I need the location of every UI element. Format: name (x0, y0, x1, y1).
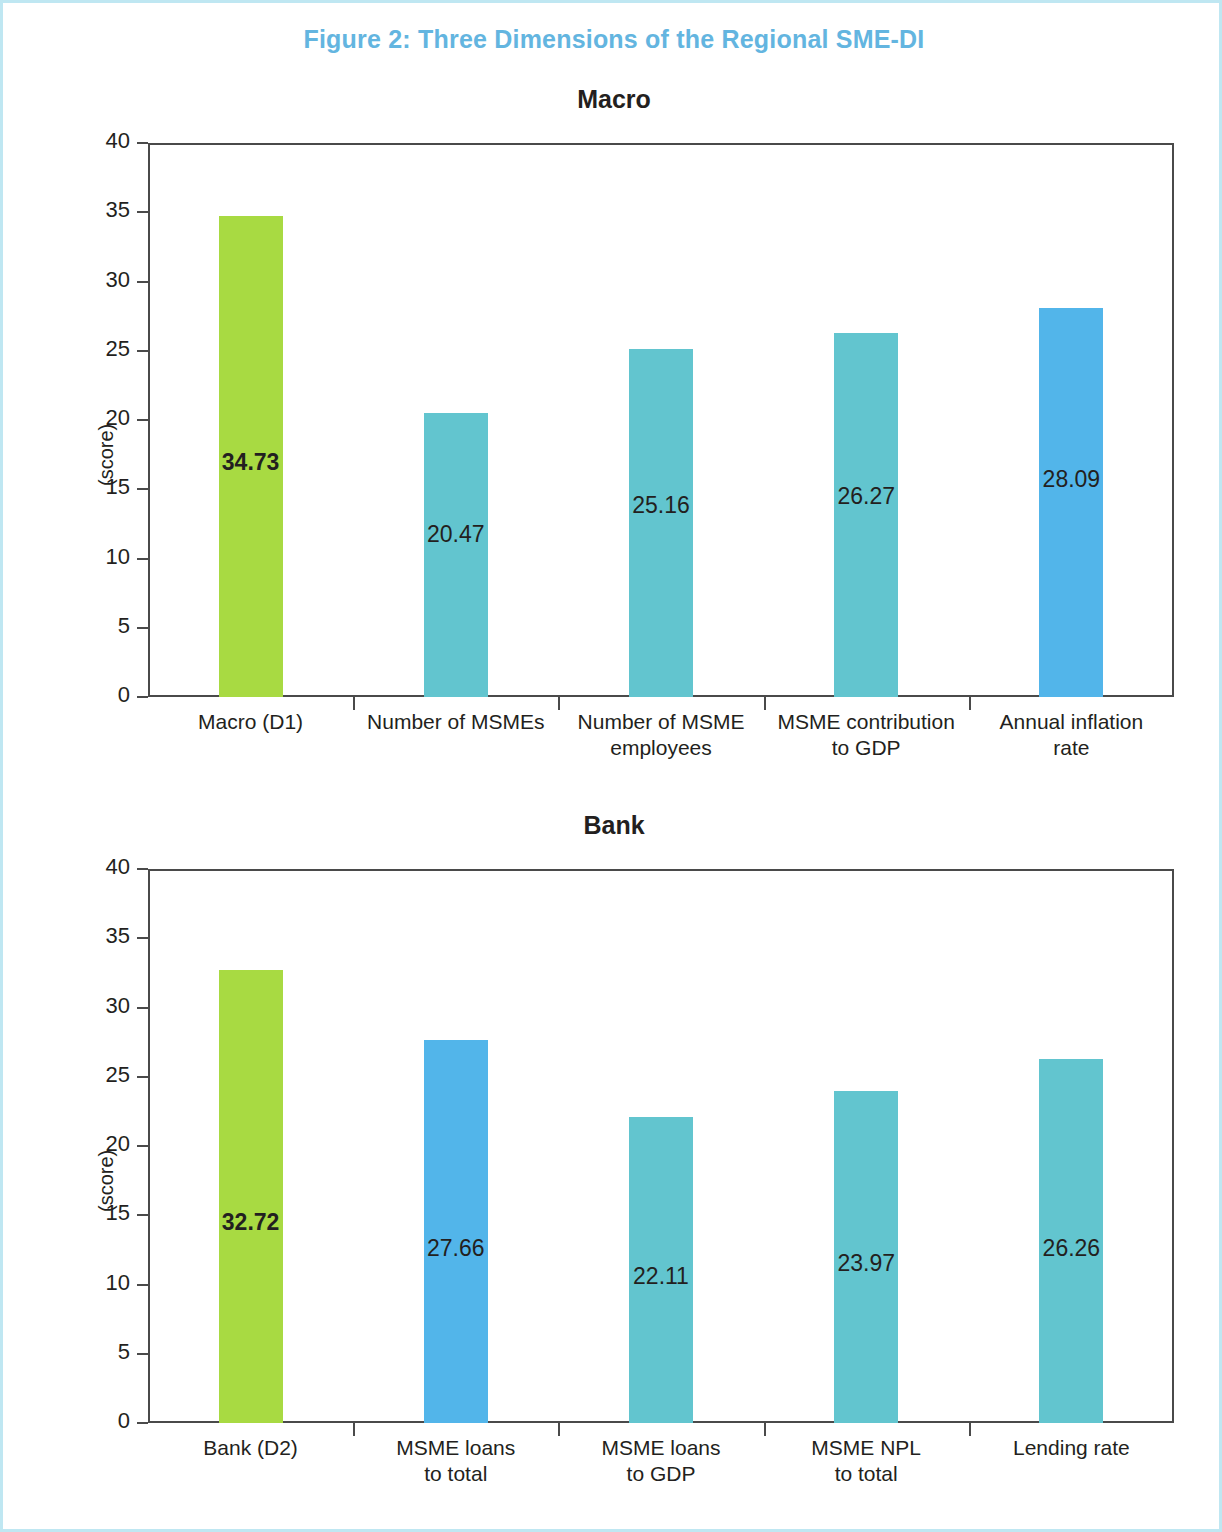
y-tick-mark (137, 558, 148, 560)
y-tick-label: 25 (38, 1062, 130, 1088)
y-tick-label: 40 (38, 128, 130, 154)
x-category-line: to total (353, 1461, 558, 1487)
bar-value-label: 32.72 (181, 1209, 321, 1236)
figure-title: Figure 2: Three Dimensions of the Region… (3, 25, 1222, 54)
x-category-label: MSME NPLto total (764, 1435, 969, 1486)
x-category-label: Number of MSMEemployees (558, 709, 763, 760)
bar-macro-3 (834, 333, 898, 697)
x-category-line: to total (764, 1461, 969, 1487)
bar-value-label: 27.66 (386, 1235, 526, 1262)
bar-macro-4 (1039, 308, 1103, 697)
y-tick-mark (137, 1145, 148, 1147)
y-tick-mark (137, 419, 148, 421)
y-tick-mark (137, 281, 148, 283)
y-tick-mark (137, 142, 148, 144)
y-tick-mark (137, 627, 148, 629)
y-tick-label: 15 (38, 474, 130, 500)
x-category-line: Macro (D1) (148, 709, 353, 735)
x-category-line: employees (558, 735, 763, 761)
bar-value-label: 25.16 (591, 492, 731, 519)
y-tick-mark (137, 1214, 148, 1216)
y-tick-label: 40 (38, 854, 130, 880)
y-tick-mark (137, 211, 148, 213)
y-tick-label: 35 (38, 923, 130, 949)
y-tick-label: 10 (38, 544, 130, 570)
x-category-line: MSME loans (353, 1435, 558, 1461)
bar-bank-1 (424, 1040, 488, 1423)
bar-value-label: 34.73 (181, 449, 321, 476)
bar-value-label: 26.27 (796, 483, 936, 510)
y-tick-label: 5 (38, 613, 130, 639)
bar-value-label: 26.26 (1001, 1235, 1141, 1262)
x-category-label: Macro (D1) (148, 709, 353, 735)
x-category-label: Annual inflationrate (969, 709, 1174, 760)
figure-page: Figure 2: Three Dimensions of the Region… (0, 0, 1222, 1532)
y-tick-mark (137, 1284, 148, 1286)
y-tick-label: 30 (38, 267, 130, 293)
x-category-line: MSME NPL (764, 1435, 969, 1461)
y-tick-mark (137, 937, 148, 939)
y-tick-mark (137, 868, 148, 870)
x-category-label: MSME loansto GDP (558, 1435, 763, 1486)
y-tick-label: 0 (38, 1408, 130, 1434)
bar-macro-1 (424, 413, 488, 697)
bar-value-label: 20.47 (386, 521, 526, 548)
y-tick-label: 25 (38, 336, 130, 362)
x-category-label: MSME loansto total (353, 1435, 558, 1486)
y-tick-label: 35 (38, 197, 130, 223)
y-tick-mark (137, 1422, 148, 1424)
x-category-label: Number of MSMEs (353, 709, 558, 735)
y-tick-mark (137, 1353, 148, 1355)
x-category-line: to GDP (558, 1461, 763, 1487)
x-category-line: to GDP (764, 735, 969, 761)
y-tick-label: 20 (38, 1131, 130, 1157)
y-tick-label: 15 (38, 1200, 130, 1226)
bar-bank-0 (219, 970, 283, 1423)
y-tick-mark (137, 1076, 148, 1078)
chart-title-bank: Bank (3, 811, 1222, 840)
y-tick-label: 0 (38, 682, 130, 708)
y-tick-label: 30 (38, 993, 130, 1019)
y-tick-mark (137, 488, 148, 490)
y-tick-label: 5 (38, 1339, 130, 1365)
x-category-line: Lending rate (969, 1435, 1174, 1461)
x-category-label: Lending rate (969, 1435, 1174, 1461)
bar-value-label: 22.11 (591, 1263, 731, 1290)
x-category-line: Number of MSMEs (353, 709, 558, 735)
bar-macro-2 (629, 349, 693, 697)
x-category-line: Annual inflation (969, 709, 1174, 735)
x-category-line: Number of MSME (558, 709, 763, 735)
x-category-line: MSME loans (558, 1435, 763, 1461)
x-category-line: Bank (D2) (148, 1435, 353, 1461)
y-tick-mark (137, 696, 148, 698)
y-tick-label: 10 (38, 1270, 130, 1296)
y-tick-mark (137, 350, 148, 352)
y-tick-mark (137, 1007, 148, 1009)
y-tick-label: 20 (38, 405, 130, 431)
x-category-label: Bank (D2) (148, 1435, 353, 1461)
chart-title-macro: Macro (3, 85, 1222, 114)
bar-value-label: 28.09 (1001, 466, 1141, 493)
bar-value-label: 23.97 (796, 1250, 936, 1277)
x-category-line: rate (969, 735, 1174, 761)
x-category-label: MSME contributionto GDP (764, 709, 969, 760)
x-category-line: MSME contribution (764, 709, 969, 735)
